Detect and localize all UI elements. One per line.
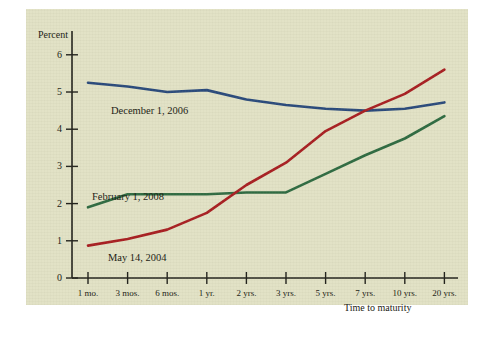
y-tick-label-4: 4 <box>44 123 62 134</box>
plot-area: 0123456 1 mo.3 mos.6 mos.1 yr.2 yrs.3 yr… <box>26 9 468 305</box>
y-tick-label-0: 0 <box>44 272 62 283</box>
x-axis-title: Time to maturity <box>344 302 411 313</box>
y-tick-label-1: 1 <box>44 235 62 246</box>
yield-curve-chart <box>26 9 468 305</box>
series-label-1: February 1, 2008 <box>92 191 164 202</box>
x-tick-label-9: 20 yrs. <box>420 288 468 298</box>
y-axis-title: Percent <box>38 29 68 40</box>
y-tick-label-2: 2 <box>44 198 62 209</box>
series-label-0: December 1, 2006 <box>111 105 188 116</box>
y-tick-label-3: 3 <box>44 160 62 171</box>
series-line-2 <box>88 70 444 246</box>
y-tick-label-6: 6 <box>44 49 62 60</box>
y-tick-label-5: 5 <box>44 86 62 97</box>
chart-series-group <box>88 70 444 246</box>
series-label-2: May 14, 2004 <box>108 252 167 263</box>
chart-figure: 0123456 1 mo.3 mos.6 mos.1 yr.2 yrs.3 yr… <box>26 9 468 305</box>
chart-axes <box>66 31 458 284</box>
